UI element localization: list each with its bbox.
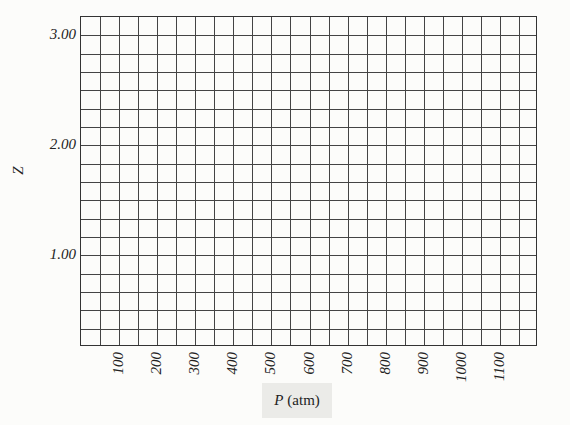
grid-vline [348,17,349,345]
grid-hline [81,164,536,165]
x-tick-label: 300 [186,352,203,375]
x-axis-label-variable: P [274,392,283,409]
grid-vline [481,17,482,345]
grid-vline [424,17,425,345]
grid-vline [443,17,444,345]
x-tick-label: 900 [415,352,432,375]
grid-hline [81,35,536,36]
grid-vline [252,17,253,345]
grid-hline [81,255,536,256]
x-tick-label: 800 [377,352,394,375]
grid-hline [81,72,536,73]
grid-vline [290,17,291,345]
grid-vline [100,17,101,345]
x-tick-label: 600 [301,352,318,375]
y-tick-label: 2.00 [50,136,76,153]
grid-hline [81,127,536,128]
plot-area [80,16,537,346]
grid-vline [119,17,120,345]
y-tick-label: 1.00 [50,246,76,263]
grid-vline [310,17,311,345]
x-tick-label: 500 [262,352,279,375]
grid-hline [81,54,536,55]
grid-vline [329,17,330,345]
grid-vline [367,17,368,345]
x-tick-label: 700 [339,352,356,375]
x-tick-label: 400 [224,352,241,375]
grid-hline [81,292,536,293]
x-axis-label: P (atm) [262,383,332,418]
x-tick-label: 100 [110,352,127,375]
grid-hline [81,219,536,220]
grid-hline [81,109,536,110]
x-axis-label-unit: (atm) [287,392,319,409]
grid-vline [519,17,520,345]
grid-vline [386,17,387,345]
grid-vline [214,17,215,345]
grid-hline [81,145,536,146]
grid-hline [81,237,536,238]
x-tick-label: 1100 [491,352,508,381]
grid-hline [81,329,536,330]
grid-vline [462,17,463,345]
grid-vline [157,17,158,345]
x-tick-label: 200 [148,352,165,375]
grid-vline [405,17,406,345]
grid-hline [81,274,536,275]
grid-hline [81,310,536,311]
grid-vline [195,17,196,345]
x-tick-label: 1000 [453,352,470,382]
y-axis-label: Z [10,166,27,174]
grid-vline [500,17,501,345]
grid-vline [176,17,177,345]
y-tick-label: 3.00 [50,26,76,43]
grid-hline [81,182,536,183]
grid-vline [271,17,272,345]
grid-hline [81,200,536,201]
grid-vline [233,17,234,345]
grid-hline [81,90,536,91]
grid-vline [138,17,139,345]
